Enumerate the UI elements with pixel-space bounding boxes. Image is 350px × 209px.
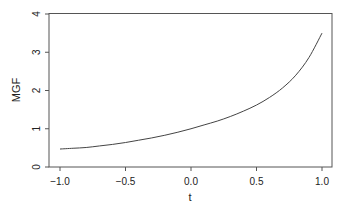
x-tick-label: 1.0	[315, 176, 329, 187]
y-tick-label: 0	[31, 164, 42, 170]
x-axis-label: t	[188, 191, 191, 203]
y-tick-label: 1	[31, 126, 42, 132]
x-tick-label: −1.0	[50, 176, 70, 187]
x-axis: −1.0−0.50.00.51.0	[50, 167, 329, 187]
y-tick-label: 4	[31, 11, 42, 17]
mgf-chart: −1.0−0.50.00.51.0 01234 t MGF	[0, 0, 350, 209]
x-tick-label: −0.5	[116, 176, 136, 187]
mgf-line	[60, 33, 322, 149]
y-tick-label: 2	[31, 87, 42, 93]
y-tick-label: 3	[31, 49, 42, 55]
x-tick-label: 0.0	[184, 176, 198, 187]
x-tick-label: 0.5	[250, 176, 264, 187]
y-axis-label: MGF	[10, 78, 22, 103]
plot-box	[49, 14, 332, 168]
y-axis: 01234	[31, 11, 49, 170]
